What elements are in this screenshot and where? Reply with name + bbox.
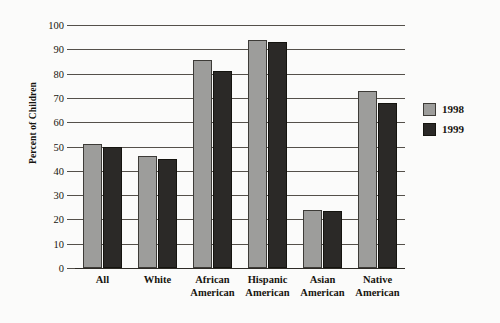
gridline [75,171,405,172]
y-axis-tick-mark [67,195,75,196]
legend-item-1998: 1998 [423,99,464,119]
y-axis-tick-label: 60 [0,117,64,128]
legend-swatch-1998 [423,103,436,116]
y-axis-tick-label: 30 [0,190,64,201]
y-axis-tick-mark [67,244,75,245]
y-axis-tick-mark [67,49,75,50]
y-axis-tick-mark [67,98,75,99]
gridline [75,195,405,196]
y-axis-tick-label: 80 [0,68,64,79]
bar-1999-native-american [378,103,397,268]
y-axis-tick-label: 90 [0,44,64,55]
legend-item-1999: 1999 [423,119,464,139]
y-axis-tick-label: 50 [0,141,64,152]
bar-1999-african-american [213,71,232,268]
y-axis-tick-label: 70 [0,92,64,103]
gridline [75,49,405,50]
y-axis-tick-label: 20 [0,214,64,225]
gridline [75,122,405,123]
y-axis-tick-label: 100 [0,20,64,31]
bar-1998-white [138,156,157,268]
x-axis-label-native-american: NativeAmerican [333,274,423,299]
legend-label-1999: 1999 [442,123,464,135]
y-axis-tick-mark [67,74,75,75]
legend-swatch-1999 [423,123,436,136]
gridline [75,147,405,148]
gridline [75,268,405,269]
y-axis-tick-mark [67,219,75,220]
bar-1998-all [83,144,102,268]
legend: 19981999 [423,99,464,139]
x-axis-label-line: Native [333,274,423,287]
gridline [75,244,405,245]
y-axis-tick-mark [67,147,75,148]
bar-1999-white [158,159,177,268]
plot-area [75,25,405,268]
gridline [75,219,405,220]
y-axis-tick-mark [67,25,75,26]
bar-chart-figure: Percent of Children 01020304050607080901… [0,0,500,323]
y-axis-tick-mark [67,171,75,172]
y-axis-tick-mark [67,268,75,269]
legend-label-1998: 1998 [442,103,464,115]
gridline [75,25,405,26]
gridline [75,74,405,75]
y-axis-tick-label: 10 [0,238,64,249]
bar-1998-hispanic-american [248,40,267,268]
gridline [75,98,405,99]
x-axis-label-line: American [333,287,423,300]
bar-1998-asian-american [303,210,322,268]
y-axis-tick-label: 0 [0,263,64,274]
bar-1999-hispanic-american [268,42,287,268]
y-axis-tick-mark [67,122,75,123]
bar-1999-asian-american [323,211,342,268]
bar-1998-native-american [358,91,377,268]
bar-1998-african-american [193,60,212,268]
y-axis-tick-label: 40 [0,165,64,176]
bar-1999-all [103,147,122,269]
